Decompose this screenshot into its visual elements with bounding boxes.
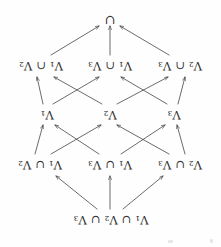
lattice-diagram-rotated-container: V₁ ∪ V₂ ∪ V₃ V₂ ∪ V₃ V₁ ∪ V₃ V₁ ∪ V₂ V₃ … [0,0,221,247]
edge-union13-to-v3 [121,125,165,154]
node-bottom-union-text: ∪ [104,12,115,27]
node-union-v2-v3-text: V₂ ∪ V₃ [158,158,202,172]
node-union-v1-v2: V₁ ∪ V₂ [18,158,62,170]
edge-v2-to-inter12 [54,77,102,104]
edge-v1-to-inter12 [37,77,43,104]
edge-top-to-union23 [123,176,163,209]
node-inter-v1-v3-text: V₁ ∩ V₃ [88,59,132,73]
edge-union13-to-v1 [55,125,99,154]
node-union-all-text: V₁ ∪ V₂ ∪ V₃ [73,213,148,227]
node-union-v1-v3: V₁ ∪ V₃ [88,158,132,170]
edge-union12-to-v1 [35,125,43,154]
node-union-v1-v2-text: V₁ ∪ V₂ [18,158,62,172]
scan-artifact-right [210,239,213,243]
node-inter-v1-v3: V₁ ∩ V₃ [88,59,132,71]
node-inter-v2-v3-text: V₂ ∩ V₃ [158,59,202,73]
node-inter-v1-v2-text: V₁ ∩ V₂ [19,59,63,73]
edge-union12-to-v2 [51,125,101,154]
node-v1-text: V₁ [40,108,53,122]
edge-top-to-union12 [56,176,97,209]
node-union-all: V₁ ∪ V₂ ∪ V₃ [73,213,148,225]
edge-v1-to-inter13 [53,77,99,104]
lattice-edges-layer [0,0,221,247]
node-union-v2-v3: V₂ ∪ V₃ [158,158,202,170]
node-v2-text: V₂ [103,108,116,122]
node-union-v1-v3-text: V₁ ∪ V₃ [88,158,132,172]
diagram-page: V₁ ∪ V₂ ∪ V₃ V₂ ∪ V₃ V₁ ∪ V₃ V₁ ∪ V₂ V₃ … [0,0,221,247]
edge-v3-to-inter23 [178,77,185,104]
node-v1: V₁ [40,108,53,120]
scan-artifact-left [168,240,173,243]
node-inter-v1-v2: V₁ ∩ V₂ [19,59,63,71]
edge-inter23-to-bottom [120,26,169,55]
node-v3: V₃ [167,108,180,120]
node-v2: V₂ [103,108,116,120]
node-inter-v2-v3: V₂ ∩ V₃ [158,59,202,71]
edge-union23-to-v3 [177,125,185,154]
node-v3-text: V₃ [167,108,180,122]
edge-inter12-to-bottom [51,26,99,55]
node-bottom-union: ∪ [104,13,115,26]
